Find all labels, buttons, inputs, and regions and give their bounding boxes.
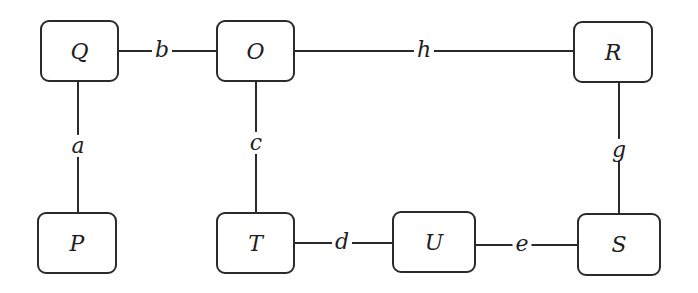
node-label: Q [70,39,88,64]
edge-label-d: d [332,231,352,253]
node-label: R [605,40,622,65]
node-u: U [392,211,476,273]
node-label: U [425,230,444,255]
graph-diagram: abcdegh QORPTUS [0,0,698,293]
node-label: O [246,39,264,64]
edge-label-a: a [68,135,87,157]
node-p: P [37,212,117,274]
node-label: T [248,231,263,256]
node-t: T [216,212,295,274]
node-q: Q [40,20,119,82]
node-s: S [577,213,661,276]
edge-label-c: c [247,132,265,154]
edge-label-e: e [512,233,531,255]
edge-label-g: g [609,139,629,161]
node-label: P [70,231,85,256]
edge-label-b: b [152,39,172,61]
node-label: S [611,232,626,257]
edge-label-h: h [414,39,434,61]
node-o: O [216,20,295,82]
node-r: R [573,21,653,83]
